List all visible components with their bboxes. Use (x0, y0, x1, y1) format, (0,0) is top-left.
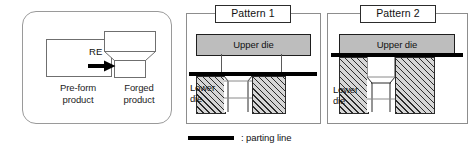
pattern-1-cavity (224, 76, 252, 112)
parting-line-swatch-icon (188, 136, 234, 140)
pattern-2-lower-die-label: Lower die (333, 84, 367, 106)
pattern-1-stem-right (281, 54, 282, 73)
pattern-1-lower-die-label: Lower die (190, 82, 224, 104)
diagram-canvas: Pre-form product Forged product RE Patte… (0, 0, 475, 158)
pattern-1-title: Pattern 1 (215, 5, 291, 23)
legend: : parting line (188, 132, 291, 143)
forged-label: Forged product (108, 82, 170, 105)
pattern-2-lower-die-right (395, 57, 435, 114)
re-label: RE (89, 46, 103, 57)
pattern-1-lower-die-right (252, 76, 286, 114)
legend-label: : parting line (241, 132, 291, 143)
pattern-1-upper-die: Upper die (196, 34, 311, 56)
right-arrow-icon (88, 58, 116, 70)
pattern-1-stem-left (221, 54, 222, 73)
pattern-2-title: Pattern 2 (360, 5, 436, 23)
pattern-2-cavity (367, 57, 395, 112)
